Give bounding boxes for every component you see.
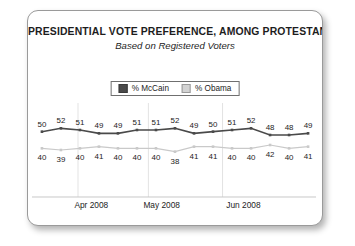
data-value-label: 40 [152,153,161,162]
data-value-label: 39 [56,155,65,164]
x-axis-tick-label: Apr 2008 [74,200,108,210]
x-axis: Apr 2008May 2008Jun 2008 [32,197,316,210]
data-point-marker [79,147,82,150]
data-value-label: 41 [95,152,104,161]
data-value-label: 51 [133,118,142,127]
data-point-marker [174,150,177,153]
data-point-marker [231,147,234,150]
chart-legend: % McCain % Obama [111,81,240,96]
data-value-label: 40 [114,153,123,162]
data-value-label: 41 [304,152,313,161]
data-value-label: 49 [304,121,313,130]
data-value-label: 50 [37,120,46,129]
data-point-marker [117,132,120,135]
data-value-label: 52 [56,116,65,125]
value-labels: 5052514949515152495051524848494039404140… [37,116,313,165]
data-point-marker [41,147,44,150]
data-point-marker [174,127,177,130]
data-point-marker [98,132,101,135]
data-value-label: 49 [190,121,199,130]
chart-title: PRESIDENTIAL VOTE PREFERENCE, AMONG PROT… [28,26,322,37]
data-point-marker [231,129,234,132]
data-point-marker [307,132,310,135]
gridlines [78,103,223,197]
line-chart-plot: 5052514949515152495051524848494039404140… [28,103,322,221]
data-point-marker [155,129,158,132]
data-point-marker [250,147,253,150]
data-value-label: 48 [266,123,275,132]
data-point-marker [193,132,196,135]
chart-subtitle: Based on Registered Voters [28,40,322,51]
data-point-marker [288,134,291,137]
data-point-marker [79,129,82,132]
data-point-marker [307,145,310,148]
data-point-marker [136,147,139,150]
data-point-marker [98,145,101,148]
data-value-label: 51 [152,118,161,127]
data-value-label: 42 [266,150,275,159]
legend-label-obama: % Obama [195,84,231,93]
data-value-label: 40 [133,153,142,162]
data-value-label: 49 [114,121,123,130]
data-value-label: 50 [209,120,218,129]
data-value-label: 51 [228,118,237,127]
data-point-marker [136,129,139,132]
data-value-label: 38 [171,157,180,166]
legend-item-obama[interactable]: % Obama [182,84,231,93]
data-value-label: 41 [190,152,199,161]
data-point-marker [288,147,291,150]
data-point-marker [250,127,253,130]
legend-item-mccain[interactable]: % McCain [119,84,169,93]
data-value-label: 51 [76,118,85,127]
data-point-marker [212,145,215,148]
x-axis-tick-label: May 2008 [143,200,180,210]
data-point-marker [193,145,196,148]
data-point-marker [212,130,215,133]
legend-swatch-mccain [119,84,128,93]
data-point-marker [269,134,272,137]
legend-label-mccain: % McCain [132,84,169,93]
data-value-label: 52 [247,116,256,125]
data-value-label: 52 [171,116,180,125]
data-value-label: 40 [228,153,237,162]
data-point-marker [60,149,63,152]
data-point-marker [117,147,120,150]
data-point-marker [60,127,63,130]
data-value-label: 49 [95,121,104,130]
chart-card: PRESIDENTIAL VOTE PREFERENCE, AMONG PROT… [27,10,323,226]
data-value-label: 40 [37,153,46,162]
data-point-marker [155,147,158,150]
legend-swatch-obama [182,84,191,93]
x-axis-tick-label: Jun 2008 [226,200,261,210]
data-value-label: 40 [285,153,294,162]
data-value-label: 40 [76,153,85,162]
data-point-marker [41,130,44,133]
data-value-label: 48 [285,123,294,132]
data-value-label: 41 [209,152,218,161]
data-point-marker [269,144,272,147]
data-value-label: 40 [247,153,256,162]
